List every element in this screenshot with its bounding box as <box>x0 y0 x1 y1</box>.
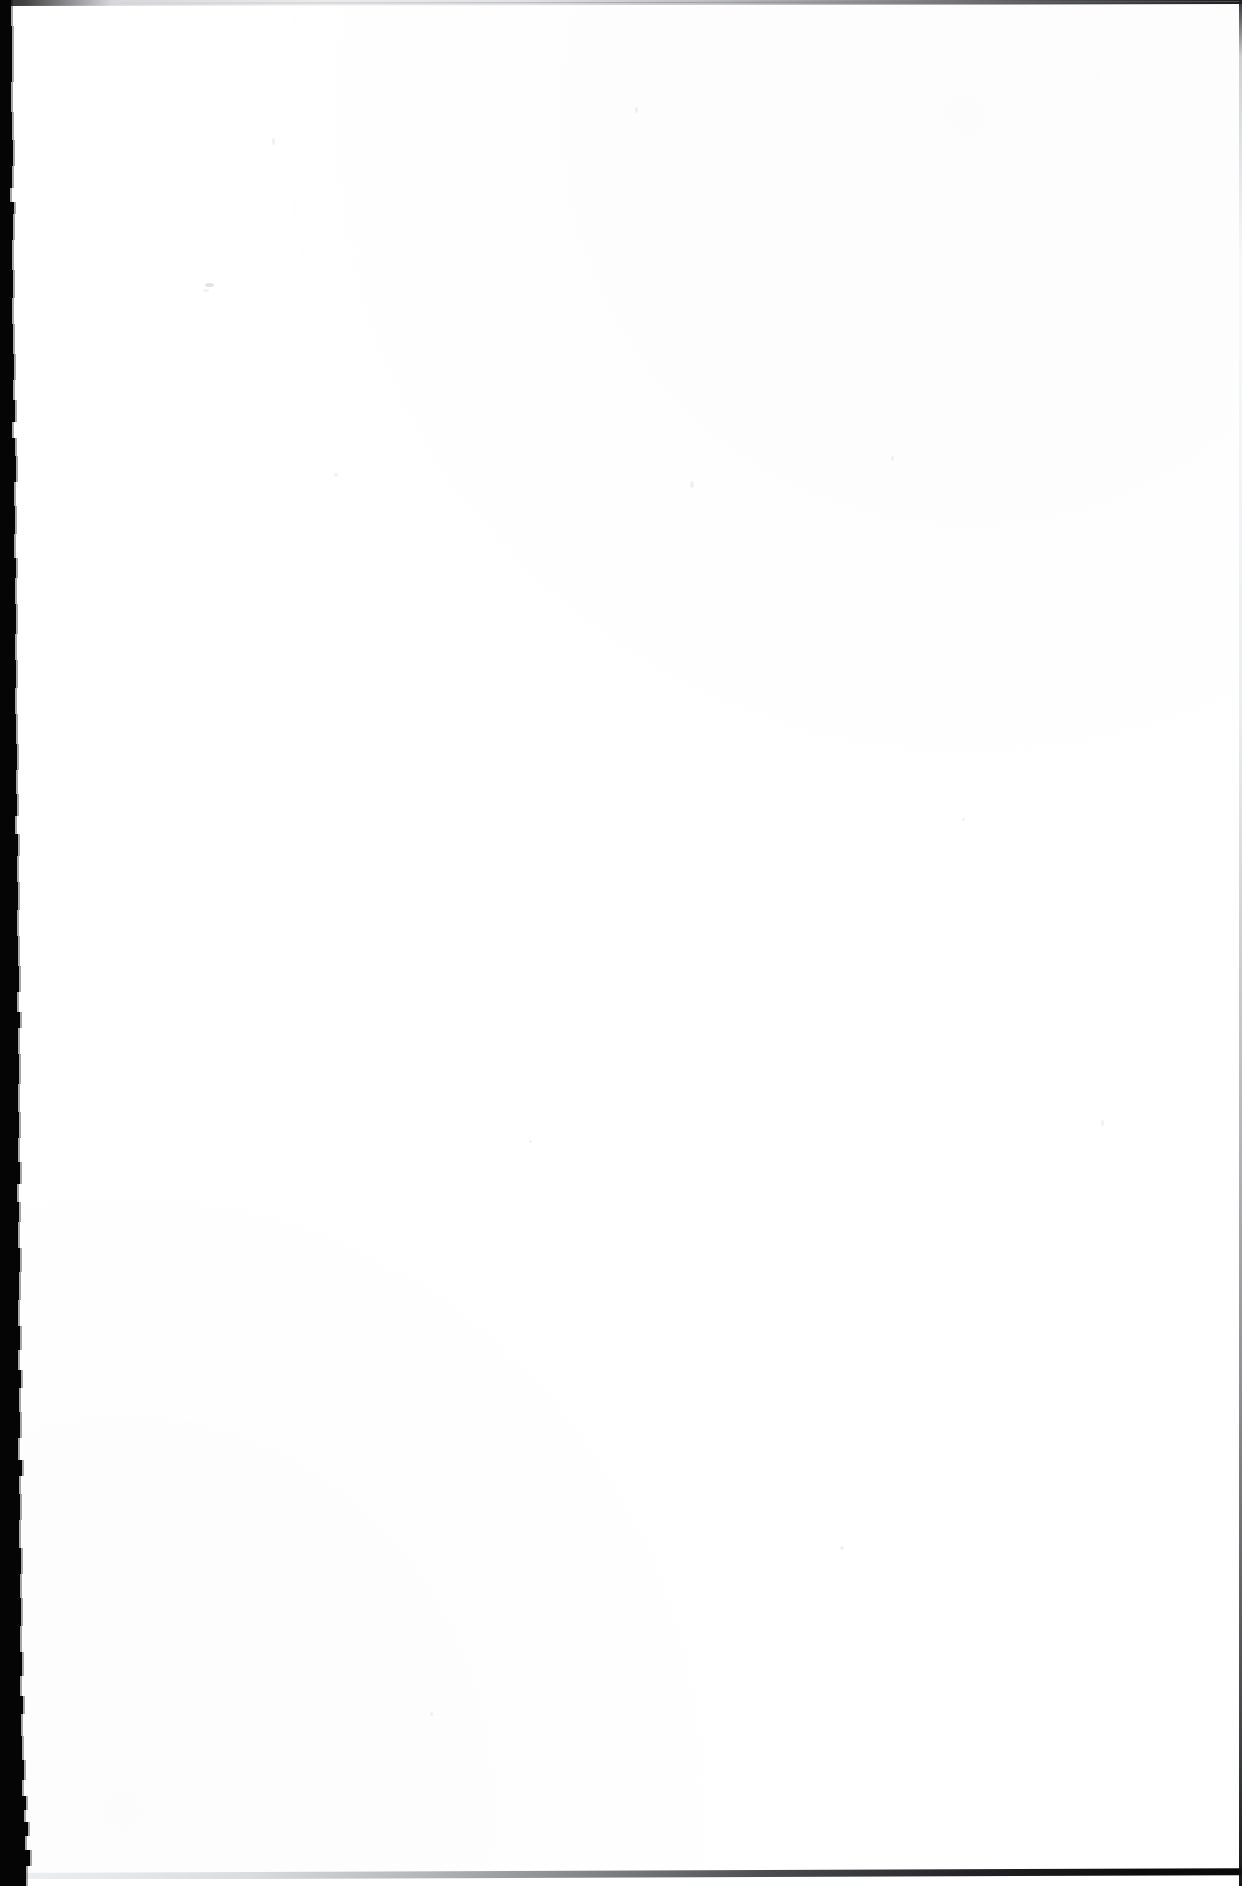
scan-shadow-left-lip <box>13 214 15 240</box>
scan-shadow-left-band <box>0 1574 20 1598</box>
scan-shadow-left-band <box>0 1676 20 1696</box>
scan-shadow-left-lip <box>16 660 18 688</box>
page-content-area <box>96 96 1152 1776</box>
scan-shadow-left-band <box>0 1780 22 1796</box>
scan-shadow-left-band <box>0 1760 24 1780</box>
scan-shadow-left-lip <box>19 1112 21 1138</box>
scan-shadow-left-lip <box>11 82 13 112</box>
scan-shadow-left-band <box>0 1626 20 1652</box>
scan-shadow-left-band <box>0 634 15 660</box>
scan-shadow-left-band <box>0 834 18 856</box>
scan-shadow-left-lip <box>17 910 19 936</box>
scan-shadow-left-band <box>0 1112 19 1138</box>
scan-shadow-left-band <box>0 1652 22 1676</box>
scan-shadow-left-lip <box>30 1850 32 1866</box>
scan-shadow-left-lip <box>18 1350 20 1370</box>
scan-shadow-left-lip <box>16 558 18 578</box>
scan-shadow-left-band <box>0 482 14 506</box>
scan-shadow-left-band <box>0 660 16 688</box>
scan-shadow-left-band <box>0 688 15 714</box>
scan-shadow-left-band <box>0 882 18 910</box>
scan-shadow-left-band <box>0 1520 19 1548</box>
scan-shadow-left-band <box>0 1272 19 1300</box>
scan-shadow-left-lip <box>18 882 20 910</box>
scan-shadow-left-lip <box>16 456 18 482</box>
scan-shadow-left <box>0 0 34 1886</box>
scan-shadow-left-band <box>0 298 12 324</box>
scan-shadow-left-band <box>0 422 12 438</box>
scan-shadow-left-lip <box>20 1574 22 1598</box>
scan-shadow-left-band <box>0 744 17 770</box>
scan-shadow-left-band <box>0 1822 28 1836</box>
scan-shadow-left-band <box>0 1028 18 1054</box>
scan-shadow-left-band <box>0 26 12 48</box>
scan-shadow-left-lip <box>19 1054 21 1084</box>
scan-shadow-left-lip <box>18 1028 20 1054</box>
scan-shadow-left-band <box>0 1810 24 1822</box>
scan-shadow-left-lip <box>12 26 14 48</box>
scan-shadow-left-band <box>0 188 10 202</box>
scan-shadow-left-band <box>0 534 14 558</box>
scan-shadow-left-band <box>0 1326 20 1350</box>
scan-shadow-left-lip <box>19 966 21 992</box>
scan-shadow-left-band <box>0 910 17 936</box>
scan-shadow-left-band <box>0 1866 26 1886</box>
scan-shadow-left-lip <box>26 1796 28 1810</box>
scanned-page <box>0 0 1242 1886</box>
scan-shadow-left-lip <box>18 1438 20 1460</box>
scan-shadow-left-lip <box>18 1084 20 1112</box>
scan-shadow-left-lip <box>19 1272 21 1300</box>
scan-shadow-left-lip <box>19 1202 21 1222</box>
scan-shadow-left-band <box>0 112 12 140</box>
scan-shadow-left-lip <box>20 1012 22 1028</box>
scan-shadow-left-band <box>0 270 13 298</box>
scan-shadow-left-band <box>0 1054 19 1084</box>
scan-shadow-left-lip <box>22 1460 24 1476</box>
scan-shadow-left-lip <box>13 324 15 354</box>
scan-shadow-left-lip <box>15 634 17 660</box>
scan-shadow-left-band <box>0 1736 22 1760</box>
scan-shadow-left-band <box>0 202 14 214</box>
scan-shadow-left-band <box>0 48 12 82</box>
scan-shadow-left-lip <box>15 578 17 604</box>
scan-shadow-left-lip <box>16 714 18 744</box>
scan-shadow-left-lip <box>18 1300 20 1326</box>
scan-shadow-left-lip <box>20 1162 22 1184</box>
scan-shadow-left-band <box>0 82 11 112</box>
scan-shadow-left-band <box>0 1138 18 1162</box>
scan-shadow-left-lip <box>13 140 15 166</box>
scan-shadow-left-lip <box>14 482 16 506</box>
scan-shadow-left-lip <box>10 188 12 202</box>
scan-shadow-left-lip <box>15 438 17 456</box>
scan-shadow-left-lip <box>20 1494 22 1520</box>
page-edge-bottom-margin <box>0 1879 1242 1886</box>
scan-shadow-left-lip <box>13 270 15 298</box>
scan-shadow-left-band <box>0 240 12 270</box>
scan-shadow-left-lip <box>24 1810 26 1822</box>
scan-shadow-left-band <box>0 456 16 482</box>
scan-shadow-left-lip <box>20 1676 22 1696</box>
scan-shadow-left-lip <box>17 794 19 816</box>
scan-shadow-left-lip <box>22 1652 24 1676</box>
scan-shadow-left-band <box>0 1412 20 1438</box>
scan-shadow-left-lip <box>12 48 14 82</box>
scan-shadow-left-band <box>0 1460 22 1476</box>
scan-shadow-left-lip <box>28 1822 30 1836</box>
scan-shadow-left-lip <box>20 1248 22 1272</box>
scan-shadow-left-band <box>0 1476 19 1494</box>
scan-shadow-left-band <box>0 214 13 240</box>
scan-shadow-left-lip <box>12 422 14 438</box>
scan-shadow-left-lip <box>21 1548 23 1574</box>
scan-shadow-left-lip <box>15 688 17 714</box>
scan-shadow-left-band <box>0 1438 18 1460</box>
scan-shadow-left-band <box>0 400 15 422</box>
scan-shadow-left-band <box>0 992 17 1012</box>
scan-shadow-left-band <box>0 324 13 354</box>
scan-shadow-left-lip <box>20 1626 22 1652</box>
scan-shadow-left-lip <box>17 1184 19 1202</box>
scan-shadow-left-band <box>0 1202 19 1222</box>
scan-shadow-left-lip <box>21 1598 23 1626</box>
scan-shadow-left-band <box>0 714 16 744</box>
scan-shadow-left-band <box>0 1494 20 1520</box>
scan-shadow-left-lip <box>18 834 20 856</box>
